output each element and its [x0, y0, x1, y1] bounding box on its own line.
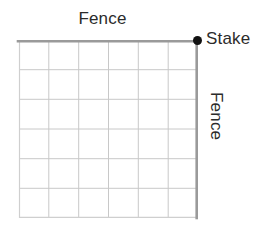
fence-label-top: Fence	[0, 10, 205, 27]
diagram-root: Fence	[0, 0, 266, 233]
grid-svg	[19, 40, 198, 218]
stake-label: Stake	[206, 30, 250, 47]
stake-point-marker	[193, 36, 202, 45]
fence-label-right: Fence	[208, 92, 225, 140]
stake-dot-icon	[193, 36, 202, 45]
fence-grid	[19, 40, 198, 218]
